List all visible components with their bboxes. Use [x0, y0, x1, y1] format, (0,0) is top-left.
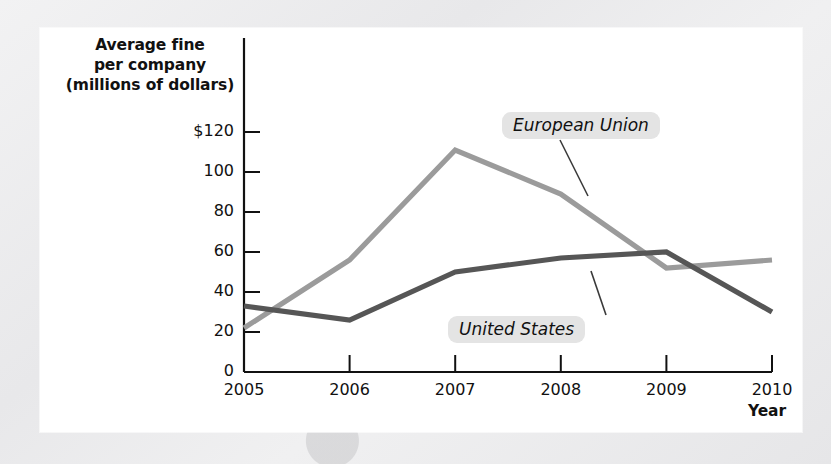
y-tick-label: 100 — [172, 161, 234, 180]
y-tick-label: 60 — [172, 241, 234, 260]
leader-line-united-states — [591, 271, 606, 315]
x-tick-label: 2005 — [209, 380, 279, 399]
x-tick-label: 2007 — [420, 380, 490, 399]
x-axis-ticks — [244, 355, 772, 372]
figure-panel: Average fine per company (millions of do… — [40, 28, 802, 432]
y-tick-label: 20 — [172, 321, 234, 340]
series-line-european-union — [244, 150, 772, 328]
y-tick-label: 40 — [172, 281, 234, 300]
y-tick-label: 80 — [172, 201, 234, 220]
series-lines — [244, 150, 772, 328]
series-label-united-states: United States — [448, 316, 585, 343]
annotation-leader-lines — [560, 140, 606, 315]
line-chart: Average fine per company (millions of do… — [40, 28, 802, 432]
x-axis-title: Year — [748, 402, 786, 422]
x-tick-label: 2006 — [315, 380, 385, 399]
series-line-united-states — [244, 252, 772, 320]
y-tick-label: 0 — [172, 361, 234, 380]
y-axis-title: Average fine per company (millions of do… — [50, 36, 250, 95]
leader-line-european-union — [560, 140, 588, 196]
x-tick-label: 2008 — [526, 380, 596, 399]
y-tick-label: $120 — [172, 121, 234, 140]
x-tick-label: 2009 — [631, 380, 701, 399]
y-axis-ticks — [244, 132, 260, 332]
series-label-european-union: European Union — [502, 112, 660, 139]
x-tick-label: 2010 — [737, 380, 807, 399]
